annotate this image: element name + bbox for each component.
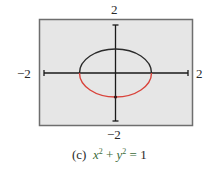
- y-min-label: −2: [107, 128, 121, 141]
- equation-x-exponent: 2: [99, 147, 103, 156]
- equation-rhs: 1: [140, 147, 147, 162]
- x-max-label: 2: [196, 67, 203, 80]
- equation-y-exponent: 2: [122, 147, 126, 156]
- caption-tag: (c): [72, 147, 86, 162]
- equation-equals: =: [130, 147, 137, 162]
- caption-equation: x2 + y2 =: [90, 147, 141, 162]
- x-min-label: −2: [17, 67, 31, 80]
- y-max-label: 2: [111, 3, 118, 16]
- figure-caption: (c) x2 + y2 = 1: [72, 147, 147, 163]
- intersection-point: [114, 95, 117, 98]
- graph-figure: 2 −2 −2 2 (c) x2 + y2 = 1: [0, 0, 208, 172]
- equation-plus: +: [106, 147, 113, 162]
